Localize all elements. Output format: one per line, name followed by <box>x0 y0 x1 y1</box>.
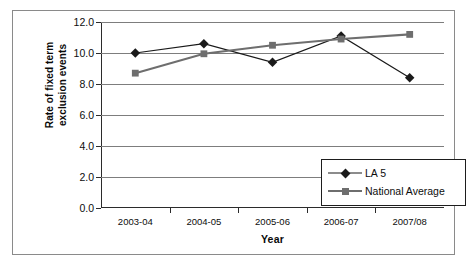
y-tick-label: 10.0 <box>74 47 94 59</box>
data-point-marker <box>131 48 141 58</box>
legend-label: National Average <box>362 185 445 197</box>
data-point-marker <box>338 36 345 43</box>
x-tick-mark <box>238 208 239 213</box>
x-tick-mark <box>375 208 376 213</box>
legend-diamond-marker-icon <box>328 166 362 180</box>
x-tick-mark <box>307 208 308 213</box>
y-tick-mark <box>96 208 101 209</box>
y-tick-label: 12.0 <box>74 16 94 28</box>
x-tick-label: 2006-07 <box>324 216 359 227</box>
data-point-marker <box>268 58 278 68</box>
y-tick-label: 0.0 <box>79 202 94 214</box>
y-tick-label: 2.0 <box>79 171 94 183</box>
y-tick-label: 4.0 <box>79 140 94 152</box>
data-point-marker <box>269 42 276 49</box>
x-tick-label: 2003-04 <box>118 216 153 227</box>
legend-item-2[interactable]: National Average <box>322 182 465 200</box>
x-tick-label: 2005-06 <box>255 216 290 227</box>
y-axis-title-line-1: Rate of fixed term <box>43 42 56 128</box>
y-axis-title-line-2: exclusion events <box>56 44 69 126</box>
y-tick-label: 8.0 <box>79 78 94 90</box>
series-1 <box>131 31 415 82</box>
data-point-marker <box>199 39 209 49</box>
data-point-marker <box>405 73 415 83</box>
data-point-marker <box>132 70 139 77</box>
x-tick-label: 2004-05 <box>186 216 221 227</box>
chart-legend: LA 5National Average <box>321 159 466 206</box>
series-line <box>135 34 409 73</box>
data-point-marker <box>406 31 413 38</box>
y-axis-title: Rate of fixed term exclusion events <box>40 0 72 170</box>
x-tick-mark <box>170 208 171 213</box>
legend-label: LA 5 <box>362 167 386 179</box>
legend-item-1[interactable]: LA 5 <box>322 164 465 182</box>
y-tick-label: 6.0 <box>79 109 94 121</box>
x-tick-label: 2007/08 <box>393 216 427 227</box>
legend-square-marker-icon <box>328 184 362 198</box>
chart-figure: Rate of fixed term exclusion events 0.02… <box>12 10 455 255</box>
x-axis-title: Year <box>101 233 444 245</box>
data-point-marker <box>201 50 208 57</box>
